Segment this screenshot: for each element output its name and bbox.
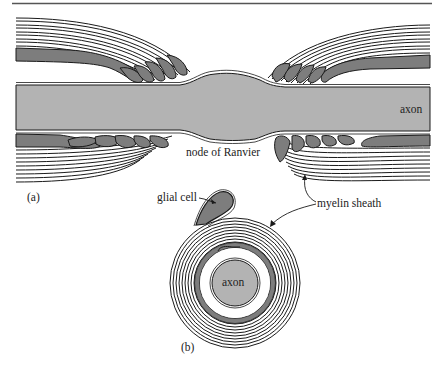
panel-a: axon node of Ranvier (a) bbox=[16, 18, 430, 204]
panel-b-label: (b) bbox=[181, 341, 195, 354]
axon-label-a: axon bbox=[400, 103, 423, 115]
axon-longitudinal bbox=[16, 73, 430, 140]
myelin-sheath-leader-lower bbox=[272, 204, 316, 224]
glial-cell-body bbox=[196, 192, 233, 225]
glial-cytoplasm-upper-right bbox=[321, 55, 430, 82]
axon-label-b: axon bbox=[222, 276, 245, 288]
myelin-sheath-leader-upper bbox=[305, 177, 316, 202]
panel-b: glial cell myelin sheath axon (b) bbox=[157, 174, 381, 354]
node-of-ranvier-label: node of Ranvier bbox=[186, 146, 260, 158]
panel-a-label: (a) bbox=[27, 191, 40, 204]
myelin-lower-right bbox=[284, 142, 430, 181]
glial-cytoplasm-upper-left bbox=[16, 48, 140, 82]
glial-cytoplasm-lower-right bbox=[362, 135, 430, 147]
myelin-sheath-label: myelin sheath bbox=[317, 197, 381, 210]
glial-cell-label: glial cell bbox=[157, 191, 197, 204]
myelin-diagram: axon node of Ranvier (a) bbox=[0, 0, 445, 366]
